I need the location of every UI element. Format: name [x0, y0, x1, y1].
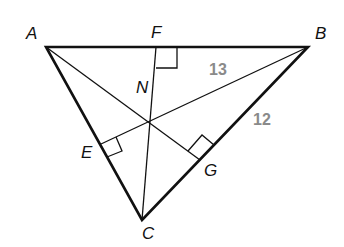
triangle-figure — [0, 0, 344, 247]
label-g: G — [204, 161, 217, 181]
measure-gb: 12 — [253, 111, 271, 129]
triangle-abc — [46, 47, 308, 220]
measure-nb: 13 — [209, 61, 227, 79]
diagram: A B C F E G N 13 12 — [0, 0, 344, 247]
label-c: C — [142, 224, 154, 244]
altitude-be — [101, 47, 308, 144]
label-e: E — [81, 143, 92, 163]
right-angle-f — [156, 47, 177, 68]
label-n: N — [136, 78, 148, 98]
label-f: F — [151, 23, 161, 43]
label-a: A — [26, 24, 37, 44]
altitude-cf — [142, 47, 156, 220]
label-b: B — [315, 24, 326, 44]
